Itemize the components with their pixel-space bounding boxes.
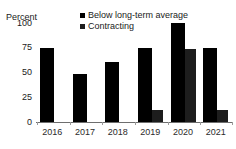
y-axis-tick-labels: 1007550250 bbox=[2, 0, 32, 149]
x-axis-tickmark-end bbox=[232, 122, 233, 125]
x-axis-tickmark-2019 bbox=[135, 122, 136, 125]
bar-2018-below-long-term-average[interactable] bbox=[105, 62, 119, 122]
legend-item-0[interactable]: Below long-term average bbox=[80, 10, 188, 20]
x-axis-tickmark-2016 bbox=[37, 122, 38, 125]
bar-2017-below-long-term-average[interactable] bbox=[73, 74, 87, 123]
y-axis-tick-25: 25 bbox=[2, 93, 32, 102]
x-axis-line bbox=[36, 122, 232, 123]
x-axis-tickmark-2018 bbox=[102, 122, 103, 125]
bar-2020-below-long-term-average[interactable] bbox=[171, 23, 185, 122]
bar-group-2021 bbox=[199, 23, 232, 122]
x-axis-tickmark-2020 bbox=[168, 122, 169, 125]
legend-swatch-icon bbox=[80, 13, 85, 18]
x-axis-tick-2019: 2019 bbox=[134, 127, 167, 137]
x-axis-tick-2016: 2016 bbox=[36, 127, 69, 137]
bar-2019-contracting[interactable] bbox=[152, 110, 163, 122]
y-axis-tick-50: 50 bbox=[2, 68, 32, 77]
bar-group-2019 bbox=[134, 23, 167, 122]
plot-area bbox=[36, 23, 232, 122]
bar-2016-below-long-term-average[interactable] bbox=[40, 48, 54, 122]
bar-group-2020 bbox=[167, 23, 200, 122]
y-axis-tick-0: 0 bbox=[2, 118, 32, 127]
bar-chart: Percent 1007550250 Below long-term avera… bbox=[0, 0, 236, 149]
chart-title-fragment bbox=[30, 0, 110, 1]
bar-2019-below-long-term-average[interactable] bbox=[138, 48, 152, 122]
x-axis-tickmark-2021 bbox=[200, 122, 201, 125]
y-axis-tick-75: 75 bbox=[2, 43, 32, 52]
bar-group-2016 bbox=[36, 23, 69, 122]
legend-label: Below long-term average bbox=[88, 10, 188, 20]
bar-2020-contracting[interactable] bbox=[185, 49, 196, 122]
bar-group-2017 bbox=[69, 23, 102, 122]
x-axis-tick-2017: 2017 bbox=[69, 127, 102, 137]
x-axis-tick-2020: 2020 bbox=[167, 127, 200, 137]
bar-group-2018 bbox=[101, 23, 134, 122]
bar-2021-contracting[interactable] bbox=[217, 110, 228, 122]
x-axis-tick-2018: 2018 bbox=[101, 127, 134, 137]
x-axis-tickmark-2017 bbox=[70, 122, 71, 125]
x-axis-tick-2021: 2021 bbox=[199, 127, 232, 137]
y-axis-tick-100: 100 bbox=[2, 19, 32, 28]
bar-2021-below-long-term-average[interactable] bbox=[203, 48, 217, 122]
